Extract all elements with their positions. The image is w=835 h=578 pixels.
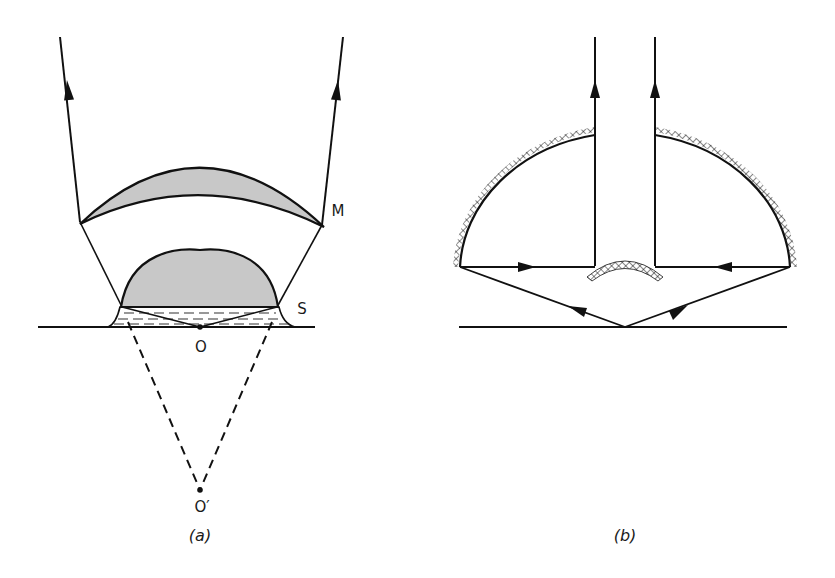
diagram-canvas <box>0 0 835 578</box>
point-O <box>197 324 203 330</box>
hemispherical-mirror-left <box>453 127 595 267</box>
crescent-mirror-M <box>80 168 324 227</box>
hemispherical-mirror-right <box>655 127 797 267</box>
arrow-right-icon <box>518 262 536 272</box>
vertical-output-rays <box>595 37 655 266</box>
central-convex-mirror <box>587 261 663 281</box>
label-S: S <box>297 302 307 317</box>
caption-a: (a) <box>189 528 211 544</box>
outgoing-ray-left <box>60 37 80 222</box>
arrow-up-icon <box>650 80 660 98</box>
label-O-prime: O′ <box>194 500 209 515</box>
label-M: M <box>332 204 345 219</box>
outgoing-ray-right <box>322 37 343 225</box>
caption-b: (b) <box>614 528 637 544</box>
label-O: O <box>195 340 207 355</box>
arrow-icon <box>568 306 587 317</box>
panel-b <box>453 37 797 327</box>
incident-ray-left <box>460 267 625 327</box>
panel-a <box>38 37 343 493</box>
point-O-prime <box>197 487 203 493</box>
dome-lens-S <box>121 250 278 307</box>
arrow-left-icon <box>714 262 732 272</box>
ray-s-to-m-left <box>80 222 122 307</box>
arrow-up-icon <box>590 80 600 98</box>
arrow-up-icon <box>62 80 74 101</box>
incident-ray-right <box>625 267 790 327</box>
ray-s-to-m-right <box>277 225 322 307</box>
